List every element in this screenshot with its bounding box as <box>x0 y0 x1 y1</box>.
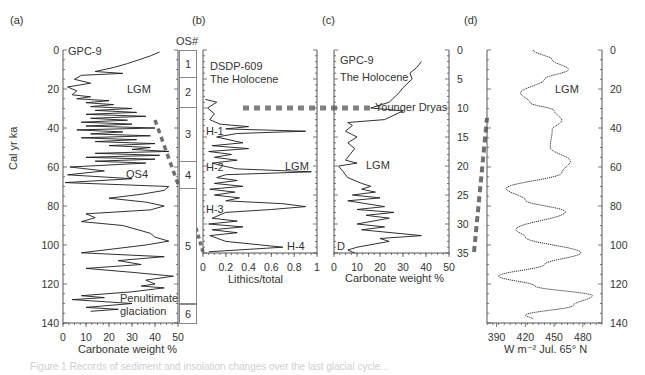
panel-a-lgm-label: LGM <box>127 84 151 95</box>
tick-label: 25 <box>457 190 469 201</box>
panel-d-lgm-label: LGM <box>555 84 579 95</box>
panel-a-label: (a) <box>10 15 23 26</box>
tick-label: 0 <box>331 262 337 273</box>
os-stage-6: 6 <box>179 304 197 325</box>
tick-label: 0 <box>60 332 66 343</box>
tick-label: 40 <box>420 262 432 273</box>
series-line-c <box>339 62 422 253</box>
panel-b-h2-label: H-2 <box>206 162 224 173</box>
panel-c-core-label: GPC-9 <box>340 55 374 66</box>
tick-label: 80 <box>47 201 59 212</box>
tick-label: 0.8 <box>287 262 302 273</box>
panel-b-label: (b) <box>192 15 205 26</box>
panel-a-core-label: GPC-9 <box>68 46 102 57</box>
series-line-a <box>65 52 173 311</box>
panel-c-label: (c) <box>322 15 335 26</box>
panel-a-os4-label: OS4 <box>126 169 148 180</box>
panel-b-h3-label: H-3 <box>206 204 224 215</box>
panel-d-label: (d) <box>464 15 477 26</box>
tick-label: 0 <box>457 45 463 56</box>
os-stage-2: 2 <box>179 77 197 107</box>
tick-label: 40 <box>610 123 622 134</box>
tick-label: 20 <box>610 84 622 95</box>
tick-label: 35 <box>457 248 469 259</box>
panel-a-xlabel: Carbonate weight % <box>78 344 177 355</box>
tick-label: 10 <box>80 332 92 343</box>
os-stage-5: 5 <box>179 188 197 304</box>
tick-label: 120 <box>610 279 628 290</box>
panel-b-h1-label: H-1 <box>206 126 224 137</box>
tick-label: 30 <box>126 332 138 343</box>
tick-label: 20 <box>47 84 59 95</box>
os-header: OS# <box>176 36 198 47</box>
tick-label: 420 <box>517 332 535 343</box>
panel-a-ylabel: Cal yr ka <box>8 127 19 170</box>
tick-label: 100 <box>610 240 628 251</box>
tick-label: 40 <box>149 332 161 343</box>
panel-c-holocene-label: The Holocene <box>340 72 409 83</box>
panel-a-glaciation-label: glaciation <box>120 306 166 317</box>
panel-b-holocene-label: The Holocene <box>210 74 279 85</box>
tick-label: 140 <box>610 318 628 329</box>
tick-label: 20 <box>457 161 469 172</box>
tick-label: 60 <box>610 162 622 173</box>
tick-label: 0.6 <box>264 262 279 273</box>
tick-label: 140 <box>41 318 59 329</box>
tick-label: 0.2 <box>218 262 233 273</box>
tick-label: 40 <box>47 123 59 134</box>
panel-a-penultimate-label: Penultimate <box>120 293 178 304</box>
panel-c-younger-dryas-label: Younger Dryas <box>375 102 447 113</box>
panel-b-xlabel: Lithics/total <box>228 274 283 285</box>
panel-c-d-label: D <box>337 241 345 252</box>
tick-label: 1 <box>314 262 320 273</box>
figure-caption: Figure 1 Records of sediment and insolat… <box>30 361 389 372</box>
panel-c-xlabel: Carbonate weight % <box>345 273 444 284</box>
tick-label: 60 <box>47 162 59 173</box>
tick-label: 0 <box>53 45 59 56</box>
os-stage-3: 3 <box>179 107 197 163</box>
panel-c-lgm-label: LGM <box>366 160 390 171</box>
tick-label: 10 <box>351 262 363 273</box>
panel-d-xlabel: W m⁻² Jul. 65° N <box>504 344 587 355</box>
tick-label: 20 <box>374 262 386 273</box>
tick-label: 80 <box>610 201 622 212</box>
tick-label: 30 <box>397 262 409 273</box>
tick-label: 0 <box>610 45 616 56</box>
tick-label: 20 <box>103 332 115 343</box>
os-stage-1: 1 <box>179 50 197 78</box>
panel-b-core-label: DSDP-609 <box>210 61 263 72</box>
panel-b-lgm-label: LGM <box>285 161 309 172</box>
panel-b-h4-label: H-4 <box>287 241 305 252</box>
tick-label: 50 <box>443 262 455 273</box>
tick-label: 120 <box>41 279 59 290</box>
tick-label: 480 <box>574 332 592 343</box>
series-line-b <box>205 99 311 252</box>
tick-label: 0 <box>200 262 206 273</box>
os-stage-4: 4 <box>179 161 197 189</box>
tick-label: 15 <box>457 132 469 143</box>
tick-label: 390 <box>488 332 506 343</box>
dashed-connector-lines <box>155 108 487 252</box>
tick-label: 50 <box>172 332 184 343</box>
tick-label: 5 <box>457 74 463 85</box>
tick-label: 30 <box>457 219 469 230</box>
tick-label: 450 <box>545 332 563 343</box>
tick-label: 10 <box>457 103 469 114</box>
tick-label: 100 <box>41 240 59 251</box>
tick-label: 0.4 <box>241 262 256 273</box>
